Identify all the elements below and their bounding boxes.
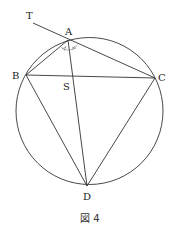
label-C: C <box>158 72 166 83</box>
segment-CD <box>87 78 155 186</box>
label-D: D <box>83 191 91 202</box>
tangent-line-TC <box>33 23 155 78</box>
label-B: B <box>12 70 19 81</box>
segment-BD <box>26 75 87 186</box>
label-S: S <box>63 81 70 92</box>
label-A: A <box>64 26 73 37</box>
segment-BC <box>26 75 155 78</box>
figure-caption: 図 4 <box>80 213 100 224</box>
geometry-figure: T A B C S D 図 4 <box>0 0 173 231</box>
label-T: T <box>26 10 33 21</box>
segment-AD <box>68 40 87 186</box>
segment-AB <box>26 40 68 75</box>
circumcircle <box>16 38 163 185</box>
